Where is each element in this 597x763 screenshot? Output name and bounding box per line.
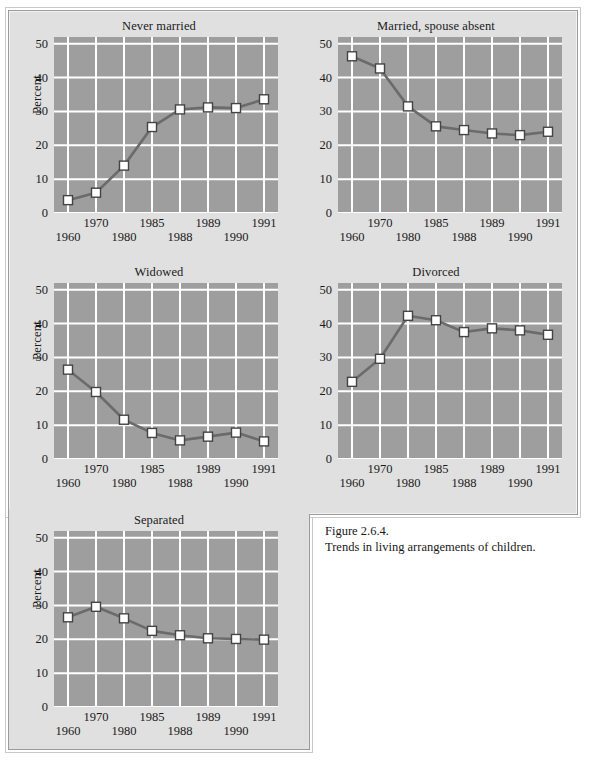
y-tick-label: 0: [306, 208, 332, 218]
plot-svg: [338, 283, 562, 459]
data-point-marker: [92, 602, 101, 611]
data-point-marker: [92, 188, 101, 197]
data-point-marker: [176, 436, 185, 445]
y-tick-label: 0: [22, 208, 48, 218]
plot-area: [338, 37, 562, 213]
x-tick-label: 1989: [480, 217, 505, 230]
x-axis-ticks: 19601970198019851988198919901991: [54, 461, 278, 497]
x-tick-label: 1990: [508, 231, 533, 244]
x-tick-label: 1980: [112, 725, 137, 738]
y-tick-label: 20: [22, 634, 48, 644]
x-tick-label: 1980: [396, 231, 421, 244]
y-tick-label: 10: [306, 420, 332, 430]
plot-area-wrapper: Percent010203040501960197019801985198819…: [16, 529, 288, 747]
chart-panel-1: Married, spouse absent010203040501960197…: [300, 18, 572, 253]
y-tick-label: 40: [306, 319, 332, 329]
gridlines: [54, 531, 278, 707]
data-point-marker: [176, 631, 185, 640]
x-axis-ticks: 19601970198019851988198919901991: [54, 215, 278, 251]
x-tick-label: 1980: [396, 477, 421, 490]
y-tick-label: 20: [22, 386, 48, 396]
data-point-marker: [544, 127, 553, 136]
data-point-marker: [348, 377, 357, 386]
plot-area: [54, 37, 278, 213]
x-tick-label: 1980: [112, 477, 137, 490]
plot-area-wrapper: Percent010203040501960197019801985198819…: [16, 281, 288, 499]
y-tick-label: 0: [22, 454, 48, 464]
x-tick-label: 1989: [196, 463, 221, 476]
x-tick-label: 1988: [452, 231, 477, 244]
x-tick-label: 1960: [56, 725, 81, 738]
gridlines: [54, 283, 278, 459]
data-point-marker: [120, 614, 129, 623]
x-axis-ticks: 19601970198019851988198919901991: [338, 461, 562, 497]
gridlines: [338, 283, 562, 459]
chart-title: Widowed: [16, 264, 288, 281]
y-tick-label: 50: [306, 285, 332, 295]
x-tick-label: 1985: [140, 711, 165, 724]
y-tick-label: 20: [306, 140, 332, 150]
chart-panel-2: WidowedPercent01020304050196019701980198…: [16, 264, 288, 499]
data-point-marker: [348, 52, 357, 61]
x-tick-label: 1985: [140, 463, 165, 476]
y-tick-label: 10: [22, 668, 48, 678]
x-tick-label: 1990: [224, 725, 249, 738]
plot-svg: [54, 37, 278, 213]
y-tick-label: 40: [22, 567, 48, 577]
y-tick-label: 10: [22, 420, 48, 430]
x-axis-ticks: 19601970198019851988198919901991: [338, 215, 562, 251]
plot-area: [338, 283, 562, 459]
x-tick-label: 1960: [340, 477, 365, 490]
x-tick-label: 1990: [224, 231, 249, 244]
data-point-marker: [460, 328, 469, 337]
data-point-marker: [148, 626, 157, 635]
y-axis-ticks: 01020304050: [22, 281, 48, 461]
y-tick-label: 30: [22, 352, 48, 362]
x-tick-label: 1991: [252, 217, 277, 230]
y-tick-label: 30: [22, 106, 48, 116]
data-point-marker: [376, 64, 385, 73]
x-tick-label: 1988: [168, 725, 193, 738]
data-point-marker: [204, 634, 213, 643]
plot-area-wrapper: Percent010203040501960197019801985198819…: [16, 35, 288, 253]
x-tick-label: 1988: [168, 477, 193, 490]
x-tick-label: 1970: [368, 217, 393, 230]
data-point-marker: [232, 634, 241, 643]
data-point-marker: [460, 126, 469, 135]
chart-panel-0: Never marriedPercent01020304050196019701…: [16, 18, 288, 253]
y-tick-label: 50: [22, 533, 48, 543]
x-tick-label: 1990: [224, 477, 249, 490]
x-tick-label: 1960: [56, 231, 81, 244]
x-tick-label: 1970: [84, 463, 109, 476]
x-tick-label: 1985: [140, 217, 165, 230]
chart-panel-4: SeparatedPercent010203040501960197019801…: [16, 512, 288, 747]
y-tick-label: 30: [306, 106, 332, 116]
plot-area: [54, 531, 278, 707]
y-tick-label: 10: [22, 174, 48, 184]
data-point-marker: [120, 161, 129, 170]
y-axis-ticks: 01020304050: [306, 35, 332, 215]
x-tick-label: 1985: [424, 463, 449, 476]
data-point-marker: [260, 437, 269, 446]
chart-title: Divorced: [300, 264, 572, 281]
data-point-marker: [204, 103, 213, 112]
data-point-marker: [404, 311, 413, 320]
chart-title: Separated: [16, 512, 288, 529]
x-tick-label: 1991: [536, 463, 561, 476]
y-tick-label: 50: [22, 285, 48, 295]
x-tick-label: 1980: [112, 231, 137, 244]
y-axis-ticks: 01020304050: [22, 35, 48, 215]
x-tick-label: 1960: [56, 477, 81, 490]
x-tick-label: 1988: [452, 477, 477, 490]
data-point-marker: [64, 196, 73, 205]
data-point-marker: [432, 122, 441, 131]
y-tick-label: 0: [22, 702, 48, 712]
plot-area-wrapper: 0102030405019601970198019851988198919901…: [300, 35, 572, 253]
y-tick-label: 0: [306, 454, 332, 464]
data-point-marker: [516, 326, 525, 335]
plot-svg: [54, 283, 278, 459]
y-tick-label: 40: [22, 319, 48, 329]
x-tick-label: 1989: [480, 463, 505, 476]
y-tick-label: 30: [306, 352, 332, 362]
figure-caption-text: Trends in living arrangements of childre…: [325, 539, 587, 555]
